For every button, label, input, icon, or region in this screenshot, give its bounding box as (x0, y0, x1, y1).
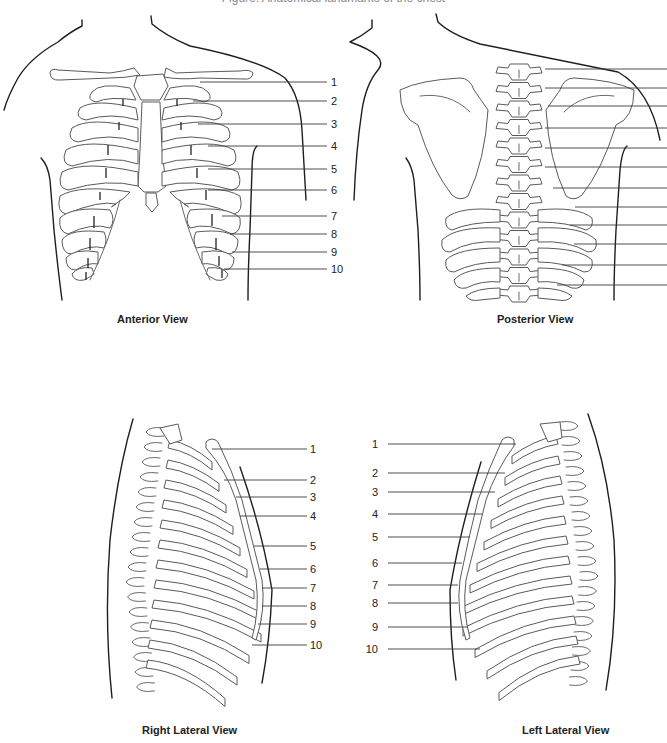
vertebral-process (131, 623, 149, 632)
rib-number-label: 2 (364, 467, 378, 479)
rib-number-label: 9 (310, 618, 316, 630)
vertebral-process (580, 572, 598, 581)
rib-number-label: 2 (331, 95, 337, 107)
rib-number-label: 10 (331, 263, 343, 275)
vertebral-process (576, 542, 594, 551)
anterior-view-drawing (4, 16, 327, 300)
rib-number-label: 7 (331, 210, 337, 222)
vertebral-process (132, 533, 150, 542)
rib-number-label: 7 (364, 579, 378, 591)
rib-number-label: 6 (364, 557, 378, 569)
rib-number-label: 2 (310, 474, 316, 486)
vertebral-process (128, 593, 146, 602)
scapula-right (546, 78, 634, 199)
vertebral-process (126, 578, 144, 587)
vertebral-process (138, 488, 156, 497)
rib-number-label: 5 (310, 540, 316, 552)
vertebral-process (564, 452, 582, 461)
clavicle-right (164, 68, 253, 79)
right-lateral-spine (126, 428, 164, 692)
vertebral-process (129, 608, 147, 617)
posterior-body-outline-left (350, 20, 381, 200)
anterior-waist-left (41, 158, 62, 300)
vertebral-process (136, 503, 154, 512)
rib-number-label: 4 (364, 508, 378, 520)
caption-right-lateral-view: Right Lateral View (142, 724, 237, 736)
posterior-waist-right (614, 146, 627, 300)
rib-number-label: 8 (331, 228, 337, 240)
caption-anterior-view: Anterior View (117, 313, 188, 325)
left-lateral-back-outline (588, 414, 615, 690)
vertebral-process (132, 638, 150, 647)
vertebral-process (579, 587, 597, 596)
rib-number-label: 10 (310, 639, 322, 651)
rib-number-label: 9 (364, 621, 378, 633)
sternum-manubrium (134, 74, 168, 100)
caption-posterior-view: Posterior View (497, 313, 573, 325)
posterior-waist-left (406, 158, 420, 300)
clavicle-left (50, 68, 140, 80)
vertebral-process (574, 527, 592, 536)
rib-number-label: 1 (331, 76, 337, 88)
vertebral-process (576, 617, 594, 626)
caption-left-lateral-view: Left Lateral View (522, 724, 609, 736)
posterior-spine (496, 64, 542, 302)
vertebral-process (140, 473, 158, 482)
vertebral-process (134, 518, 152, 527)
vertebral-process (568, 482, 586, 491)
rib-number-label: 8 (364, 597, 378, 609)
vertebral-process (570, 677, 588, 686)
vertebral-process (137, 683, 155, 692)
rib-number-label: 3 (310, 491, 316, 503)
rib-number-label: 5 (364, 531, 378, 543)
vertebral-process (560, 422, 578, 431)
vertebral-process (562, 437, 580, 446)
vertebral-process (144, 443, 162, 452)
rib-number-label: 5 (331, 163, 337, 175)
rib-number-label: 8 (310, 600, 316, 612)
vertebral-process (130, 548, 148, 557)
rib-number-label: 1 (310, 443, 316, 455)
vertebral-process (573, 647, 591, 656)
vertebral-process (577, 602, 595, 611)
rib-number-label: 9 (331, 246, 337, 258)
rib-number-label: 6 (310, 563, 316, 575)
rib-number-label: 10 (364, 643, 378, 655)
rib-number-label: 6 (331, 184, 337, 196)
rib-number-label: 1 (364, 438, 378, 450)
left-lateral-view-drawing (388, 414, 615, 701)
vertebral-process (572, 512, 590, 521)
xiphoid-process (146, 193, 158, 212)
chest-diagram (0, 0, 667, 743)
right-lateral-back-outline (107, 419, 133, 698)
vertebral-process (128, 563, 146, 572)
vertebral-process (566, 467, 584, 476)
vertebral-process (142, 458, 160, 467)
scapula-left (400, 78, 488, 199)
rib-number-label: 3 (331, 118, 337, 130)
rib-number-label: 3 (364, 486, 378, 498)
left-lateral-ribs (463, 436, 580, 701)
right-lateral-view-drawing (107, 419, 307, 707)
posterior-view-drawing (350, 14, 667, 302)
vertebral-process (578, 557, 596, 566)
vertebral-process (570, 497, 588, 506)
rib-number-label: 4 (310, 510, 316, 522)
anterior-body-outline-left (4, 20, 82, 110)
rib-number-label: 7 (310, 582, 316, 594)
rib-number-label: 4 (331, 140, 337, 152)
anterior-ribs-left (59, 86, 138, 281)
anterior-ribs-right (162, 86, 241, 281)
right-lateral-top-vertebra (160, 424, 182, 444)
